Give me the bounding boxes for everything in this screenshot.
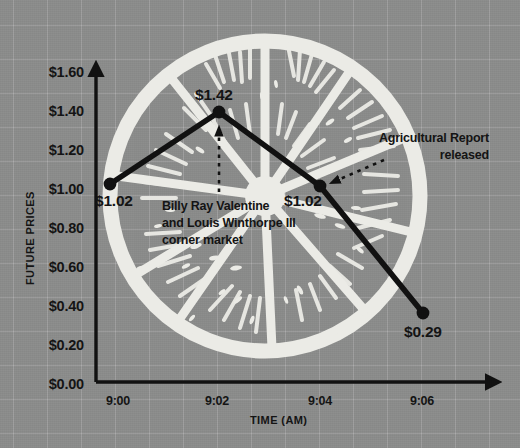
point-value-label: $0.29 xyxy=(404,323,442,341)
corner-market-annotation: Billy Ray Valentine and Louis Winthorpe … xyxy=(162,198,312,249)
annotation-line: Agricultural Report xyxy=(357,130,489,147)
y-axis-title: FUTURE PRICES xyxy=(24,191,36,285)
y-tick-label: $0.20 xyxy=(26,337,84,353)
y-tick-label: $1.60 xyxy=(26,64,84,80)
x-axis-title: TIME (AM) xyxy=(250,414,307,426)
point-value-label: $1.02 xyxy=(95,192,133,210)
data-point-marker xyxy=(314,180,327,193)
annotation-line: released xyxy=(357,147,489,164)
x-tick-label: 9:04 xyxy=(290,394,350,408)
chart-canvas: $1.60 $1.40 $1.20 $1.00 $0.80 $0.60 $0.4… xyxy=(0,0,520,448)
x-tick-label: 9:02 xyxy=(187,394,247,408)
y-tick-label: $0.00 xyxy=(26,376,84,392)
y-tick-label: $0.40 xyxy=(26,298,84,314)
data-point-marker xyxy=(104,178,117,191)
y-tick-label: $1.20 xyxy=(26,142,84,158)
annotation-line: Billy Ray Valentine xyxy=(162,198,312,215)
x-tick-label: 9:06 xyxy=(392,394,452,408)
point-value-label: $1.42 xyxy=(195,86,233,104)
annotation-line: and Louis Winthorpe III xyxy=(162,215,312,232)
annotation-line: corner market xyxy=(162,232,312,249)
y-tick-label: $1.40 xyxy=(26,103,84,119)
data-point-marker xyxy=(417,307,430,320)
ag-report-annotation: Agricultural Report released xyxy=(357,130,489,164)
x-tick-label: 9:00 xyxy=(88,394,148,408)
data-point-marker xyxy=(213,106,226,119)
